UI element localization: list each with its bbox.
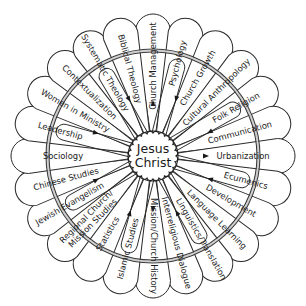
petal-label-church-management: Church Management — [148, 22, 158, 110]
petal-label-sociology: Sociology — [43, 151, 83, 161]
petal-label-urbanization: Urbanization — [216, 151, 269, 161]
center-hub: Jesus Christ — [128, 131, 177, 180]
discipline-wheel-diagram: Church ManagementPsychologyChurch Growth… — [0, 0, 306, 306]
center-label-christ: Christ — [135, 155, 172, 170]
petal-label-mission-church-history: Mission/Church History — [149, 198, 159, 294]
center-label-jesus: Jesus — [136, 141, 169, 156]
wheel-svg: Church ManagementPsychologyChurch Growth… — [0, 0, 306, 306]
